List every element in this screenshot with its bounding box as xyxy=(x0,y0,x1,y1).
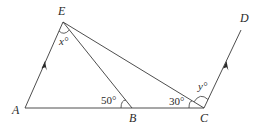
angle-label-50: 50° xyxy=(101,95,116,106)
point-label-e: E xyxy=(58,5,65,17)
angle-arc-50 xyxy=(121,100,126,108)
point-label-a: A xyxy=(12,104,19,116)
angle-arc-x xyxy=(59,30,69,33)
point-label-b: B xyxy=(129,112,136,124)
point-label-c: C xyxy=(200,112,208,124)
segment-eb xyxy=(63,22,132,108)
angle-label-30: 30° xyxy=(169,96,184,107)
angle-arc-y xyxy=(194,96,208,102)
angle-arc-30 xyxy=(189,101,192,108)
diagram-lines xyxy=(0,0,265,129)
point-label-d: D xyxy=(240,12,249,24)
geometry-diagram: E A B C D x° 50° 30° y° xyxy=(0,0,265,129)
angle-label-y: y° xyxy=(198,81,207,92)
angle-label-x: x° xyxy=(59,36,68,47)
segment-cd xyxy=(204,30,241,108)
